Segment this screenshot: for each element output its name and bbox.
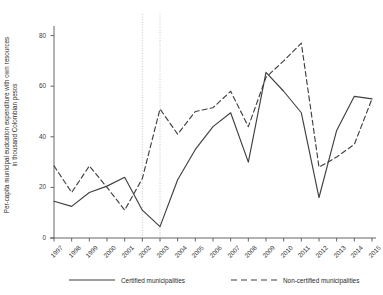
y-axis-tick-label: 40 (24, 133, 46, 140)
series-line-certified (54, 72, 372, 226)
y-axis-tick-label: 60 (24, 82, 46, 89)
legend-item-non-certified: Non-certified municipalities (230, 276, 359, 284)
legend-item-certified: Certified municipalities (68, 276, 185, 284)
y-axis-tick-label: 20 (24, 183, 46, 190)
y-axis-tick-label: 80 (24, 32, 46, 39)
chart-legend: Certified municipalities Non-certified m… (0, 276, 383, 292)
chart-figure: Per-capita municipal eudcation expenditu… (0, 0, 383, 295)
legend-label-non-certified: Non-certified municipalities (283, 277, 359, 284)
legend-key-solid-line (68, 276, 116, 284)
y-axis-tick-label: 0 (24, 234, 46, 241)
legend-key-dashed-line (230, 276, 278, 284)
legend-label-certified: Certified municipalities (121, 277, 185, 284)
